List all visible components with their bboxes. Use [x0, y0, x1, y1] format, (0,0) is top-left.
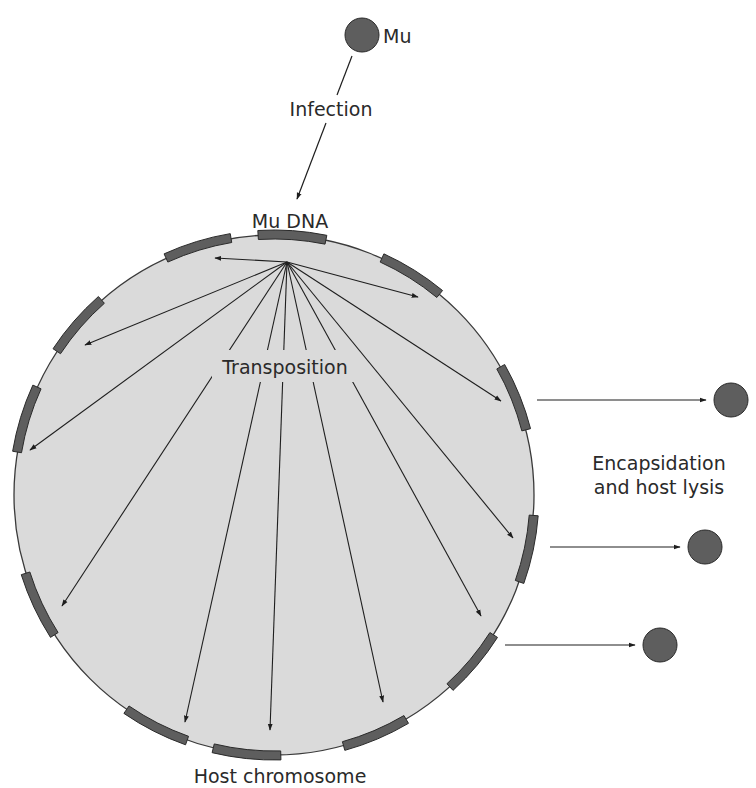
mu-transposition-diagram: Mu Infection Mu DNA Transposition Encaps…: [0, 0, 756, 788]
released-phage-icon: [688, 530, 722, 564]
infection-arrow: [297, 123, 326, 199]
phage-label: Mu: [383, 25, 411, 47]
mu-dna-label: Mu DNA: [252, 210, 328, 232]
infecting-phage-icon: [345, 18, 379, 52]
infection-label: Infection: [290, 98, 373, 120]
released-phage-icon: [714, 383, 748, 417]
released-phage-icon: [643, 628, 677, 662]
transposition-label: Transposition: [221, 356, 347, 378]
infection-line-upper: [337, 56, 352, 95]
encapsidation-label-line1: Encapsidation: [592, 452, 725, 474]
encapsidation-label-line2: and host lysis: [594, 476, 724, 498]
host-chromosome-label: Host chromosome: [194, 765, 367, 787]
released-phages: [505, 383, 748, 662]
